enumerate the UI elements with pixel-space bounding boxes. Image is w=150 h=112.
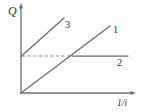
plot-canvas: Q 1/i 3 1 2 bbox=[0, 0, 150, 112]
physics-graph-figure: Q 1/i 3 1 2 bbox=[0, 0, 150, 112]
curve-label-2: 2 bbox=[117, 57, 122, 68]
curve-label-1: 1 bbox=[113, 24, 118, 35]
y-axis-label: Q bbox=[8, 4, 17, 18]
x-axis-label: 1/i bbox=[117, 98, 127, 108]
y-axis-arrow bbox=[19, 3, 23, 8]
curve-line-1 bbox=[21, 26, 110, 93]
curve-line-3 bbox=[22, 18, 65, 56]
x-axis-arrow bbox=[131, 91, 136, 95]
curve-label-3: 3 bbox=[65, 19, 70, 30]
